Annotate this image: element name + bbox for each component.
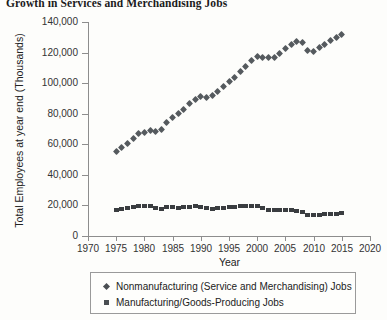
data-point <box>305 213 310 217</box>
y-axis-tick-label: 140,000 <box>16 17 78 27</box>
data-point <box>153 206 158 210</box>
data-point <box>282 45 289 52</box>
data-point <box>125 206 130 210</box>
data-point <box>136 204 141 208</box>
data-point <box>243 204 248 208</box>
data-point <box>187 205 192 209</box>
y-axis-tick-label: 120,000 <box>16 48 78 58</box>
data-point <box>289 208 294 212</box>
y-axis-tick-label: 80,000 <box>16 109 78 119</box>
y-axis-title: Total Employees at year end (Thousands) <box>14 16 25 246</box>
data-point <box>164 205 169 209</box>
data-point <box>283 208 288 212</box>
chart-legend: Nonmanufacturing (Service and Merchandis… <box>90 272 356 314</box>
data-point <box>148 204 153 208</box>
y-axis-tick-label: 40,000 <box>16 170 78 180</box>
data-point <box>142 204 147 208</box>
chart-figure: Growth in Services and Merchandising Job… <box>0 0 387 320</box>
data-point <box>176 206 181 210</box>
data-point <box>328 212 333 216</box>
x-axis-tick-mark <box>285 236 286 241</box>
data-point <box>130 135 137 142</box>
data-point <box>215 206 220 210</box>
data-point <box>198 205 203 209</box>
data-point <box>237 68 244 75</box>
data-point <box>221 206 226 210</box>
x-axis-tick-mark <box>314 236 315 241</box>
data-point <box>339 211 344 215</box>
square-marker-icon <box>101 298 111 308</box>
data-point <box>260 206 265 210</box>
data-point <box>311 213 316 217</box>
data-point <box>231 73 238 80</box>
data-point <box>114 208 119 212</box>
data-point <box>255 204 260 208</box>
plot-area <box>88 22 370 236</box>
y-axis-tick-label: 100,000 <box>16 78 78 88</box>
data-point <box>300 210 305 214</box>
data-point <box>232 205 237 209</box>
data-point <box>334 212 339 216</box>
data-point <box>322 212 327 216</box>
x-axis-tick-mark <box>342 236 343 241</box>
data-point <box>124 140 131 147</box>
data-point <box>169 114 176 121</box>
data-point <box>181 205 186 209</box>
x-axis-tick-mark <box>88 236 89 241</box>
x-axis-tick-mark <box>229 236 230 241</box>
x-axis-tick-mark <box>370 236 371 241</box>
data-point <box>119 207 124 211</box>
data-point <box>299 39 306 46</box>
data-point <box>266 208 271 212</box>
data-point <box>170 205 175 209</box>
legend-entry: Nonmanufacturing (Service and Merchandis… <box>101 279 355 294</box>
data-point <box>242 63 249 70</box>
legend-entry: Manufacturing/Goods-Producing Jobs <box>101 295 355 310</box>
data-point <box>163 119 170 126</box>
data-point <box>248 57 255 64</box>
data-point <box>225 78 232 85</box>
data-point <box>118 144 125 151</box>
x-axis-tick-mark <box>201 236 202 241</box>
x-axis-title: Year <box>88 256 371 268</box>
x-axis-tick-mark <box>144 236 145 241</box>
data-point <box>277 208 282 212</box>
data-point <box>159 207 164 211</box>
data-point <box>227 205 232 209</box>
data-point <box>131 205 136 209</box>
data-point <box>249 204 254 208</box>
legend-label: Nonmanufacturing (Service and Merchandis… <box>116 281 352 293</box>
data-point <box>338 31 345 38</box>
data-point <box>317 213 322 217</box>
data-point <box>238 204 243 208</box>
legend-label: Manufacturing/Goods-Producing Jobs <box>116 297 284 309</box>
x-axis-tick-mark <box>257 236 258 241</box>
data-point <box>180 106 187 113</box>
data-point <box>210 207 215 211</box>
diamond-marker-icon <box>101 282 111 292</box>
x-axis-tick-mark <box>173 236 174 241</box>
x-axis-tick-mark <box>116 236 117 241</box>
data-point <box>193 204 198 208</box>
data-point <box>204 206 209 210</box>
y-axis-tick-label: 20,000 <box>16 200 78 210</box>
data-point <box>220 83 227 90</box>
x-axis-tick-label: 2020 <box>350 243 387 254</box>
data-point <box>294 209 299 213</box>
y-axis-tick-label: 0 <box>16 231 78 241</box>
data-point <box>276 50 283 57</box>
data-point <box>272 208 277 212</box>
y-axis-tick-label: 60,000 <box>16 139 78 149</box>
data-point <box>186 100 193 107</box>
